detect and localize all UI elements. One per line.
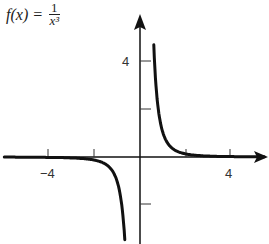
curve-negative-branch xyxy=(4,157,125,240)
y-tick-label-4: 4 xyxy=(122,54,129,69)
x-tick-label-neg4: −4 xyxy=(40,166,55,181)
x-tick-label-4: 4 xyxy=(225,166,232,181)
y-ticks xyxy=(140,61,151,204)
plot-area: −4 4 4 xyxy=(0,0,269,244)
curve-positive-branch xyxy=(154,45,264,157)
